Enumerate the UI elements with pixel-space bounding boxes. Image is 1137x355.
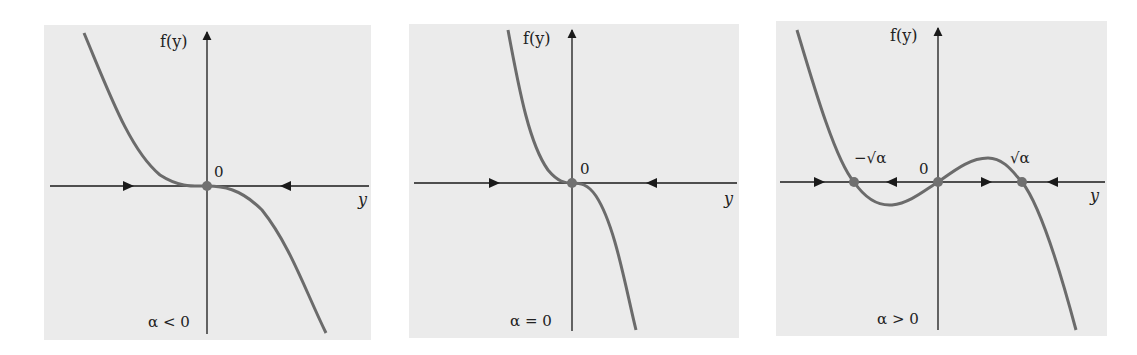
equilibrium-dot [567, 178, 577, 188]
y-axis-label: y [723, 189, 734, 208]
condition-label: α < 0 [148, 313, 190, 331]
panel-alpha-positive: f(y) 0 −√α √α y α > 0 [776, 21, 1107, 336]
panel-alpha-negative: f(y) 0 y α < 0 [44, 25, 371, 340]
equilibrium-dot-origin [933, 177, 943, 187]
f-axis-label: f(y) [160, 32, 187, 51]
origin-label: 0 [580, 160, 590, 178]
figure-canvas: f(y) 0 y α < 0 f(y) 0 y α = 0 f(y) 0 −√α… [0, 0, 1137, 355]
y-axis-label: y [357, 190, 368, 209]
condition-label: α > 0 [877, 310, 919, 328]
equilibrium-dot [202, 181, 212, 191]
equilibrium-dot-positive-root [1017, 177, 1027, 187]
origin-label: 0 [214, 163, 224, 181]
negative-root-label: −√α [854, 149, 886, 167]
origin-label: 0 [919, 160, 929, 178]
f-axis-label: f(y) [890, 26, 917, 45]
panel-alpha-zero: f(y) 0 y α = 0 [409, 24, 739, 338]
f-axis-label: f(y) [523, 29, 550, 48]
equilibrium-dot-negative-root [849, 177, 859, 187]
condition-label: α = 0 [510, 312, 552, 330]
positive-root-label: √α [1010, 149, 1030, 167]
y-axis-label: y [1089, 186, 1100, 205]
